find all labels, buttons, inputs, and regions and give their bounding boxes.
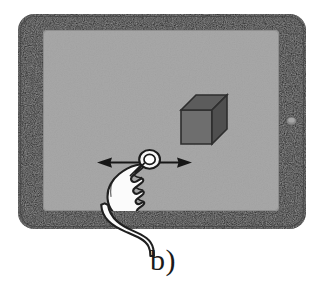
tablet-screen[interactable] [43,30,279,211]
tablet-gesture-illustration [0,0,326,293]
home-button-inner [288,118,294,123]
figure-container: b) [0,0,326,293]
tablet-device [18,14,306,256]
cube-object[interactable] [181,95,227,144]
touch-ring-inner [144,154,155,164]
